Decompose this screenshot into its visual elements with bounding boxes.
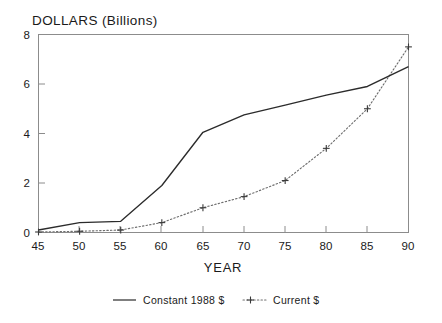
x-axis-title: YEAR [204,260,243,275]
x-axis-ticklabels: 45 50 55 60 65 70 75 80 85 90 [32,240,415,252]
chart-container: DOLLARS (Billions) 8 6 4 2 0 45 50 55 60… [0,0,442,323]
y-tick-label: 8 [24,29,30,41]
line-chart: DOLLARS (Billions) 8 6 4 2 0 45 50 55 60… [0,0,442,323]
x-tick-label: 90 [402,240,415,252]
legend-label-constant: Constant 1988 $ [143,294,225,306]
x-tick-label: 85 [361,240,374,252]
series-line-constant [39,67,409,230]
x-tick-label: 50 [73,240,86,252]
x-tick-label: 65 [197,240,210,252]
plot-frame [39,35,409,233]
x-tick-label: 45 [32,240,45,252]
x-tick-label: 60 [155,240,168,252]
series-markers-current [35,43,412,235]
chart-title: DOLLARS (Billions) [32,13,158,28]
x-tick-label: 70 [238,240,251,252]
x-tick-label: 55 [114,240,127,252]
series-line-current [39,47,409,232]
chart-legend: Constant 1988 $ Current $ [113,294,319,306]
y-axis-ticklabels: 8 6 4 2 0 [24,29,31,239]
x-tick-label: 75 [279,240,292,252]
y-tick-label: 0 [24,227,30,239]
y-tick-label: 4 [24,128,31,140]
legend-label-current: Current $ [273,294,319,306]
x-tick-label: 80 [320,240,333,252]
y-axis-tickmarks [39,84,46,183]
y-tick-label: 6 [24,78,30,90]
y-tick-label: 2 [24,177,30,189]
